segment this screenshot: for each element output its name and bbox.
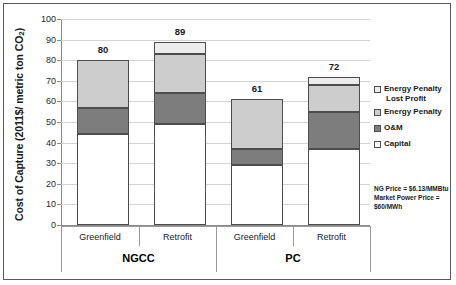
y-tick-label-50: 50 <box>46 117 56 127</box>
y-tick-label-30: 30 <box>46 158 56 168</box>
bar-segment-lost-profit[interactable] <box>308 77 360 85</box>
bar-segment-energy-penalty[interactable] <box>154 54 206 93</box>
bar-segment-om[interactable] <box>308 112 360 149</box>
bar-segment-energy-penalty[interactable] <box>77 60 129 107</box>
chart-container: Cost of Capture (2011$/ metric ton CO2) … <box>0 0 456 285</box>
y-tick-label-10: 10 <box>46 199 56 209</box>
annotation-ng-price: NG Price = $6.13/MMBtu <box>374 184 454 193</box>
legend-item-capital[interactable]: Capital <box>374 139 452 149</box>
y-tick-label-70: 70 <box>46 76 56 86</box>
bar-segment-om[interactable] <box>154 93 206 124</box>
legend-swatch-icon-energy-penalty <box>374 109 381 116</box>
legend-label-lost-profit-line1: Energy Penalty <box>384 84 442 93</box>
x-label-pc-greenfield: Greenfield <box>216 232 293 242</box>
y-tick-label-20: 20 <box>46 179 56 189</box>
y-tick-label-60: 60 <box>46 96 56 106</box>
chart-legend: Energy Penalty Lost Profit Energy Penalt… <box>374 84 452 152</box>
x-label-ngcc-greenfield: Greenfield <box>61 232 139 242</box>
legend-label-energy-penalty: Energy Penalty <box>384 107 442 117</box>
y-tick-label-40: 40 <box>46 138 56 148</box>
legend-label-lost-profit-line2: Lost Profit <box>384 94 442 104</box>
bar-segment-om[interactable] <box>77 108 129 135</box>
legend-swatch-icon-om <box>374 125 381 132</box>
annotation-market-power-price: Market Power Price = $60/MWh <box>374 193 454 211</box>
legend-item-energy-penalty-lost-profit[interactable]: Energy Penalty Lost Profit <box>374 84 452 104</box>
legend-item-om[interactable]: O&M <box>374 123 452 133</box>
y-axis-title-text: Cost of Capture (2011$/ metric ton CO <box>13 36 25 221</box>
bar-total-label-ngcc-greenfield: 80 <box>77 44 129 55</box>
x-group-label-pc: PC <box>216 252 370 264</box>
gridline-100: 100 <box>61 19 370 20</box>
y-tick-label-90: 90 <box>46 35 56 45</box>
gridline-90: 90 <box>61 40 370 41</box>
bar-segment-capital[interactable] <box>77 134 129 225</box>
bar-total-label-ngcc-retrofit: 89 <box>154 26 206 37</box>
x-label-pc-retrofit: Retrofit <box>293 232 370 242</box>
legend-swatch-icon-capital <box>374 141 381 148</box>
y-axis-title-suffix: ) <box>13 28 25 31</box>
y-tick-label-0: 0 <box>51 220 56 230</box>
legend-label-lost-profit: Energy Penalty Lost Profit <box>384 84 442 104</box>
bar-segment-energy-penalty[interactable] <box>231 99 283 149</box>
legend-label-om: O&M <box>384 123 403 133</box>
bar-segment-energy-penalty[interactable] <box>308 85 360 112</box>
bar-segment-capital[interactable] <box>308 149 360 225</box>
x-label-ngcc-retrofit: Retrofit <box>139 232 216 242</box>
x-axis-divider-right <box>370 226 371 246</box>
legend-swatch-icon-lost-profit <box>374 86 381 93</box>
y-axis-title-subscript: 2 <box>17 31 26 35</box>
y-tick-label-100: 100 <box>41 14 56 24</box>
bar-segment-lost-profit[interactable] <box>154 42 206 54</box>
bar-segment-om[interactable] <box>231 149 283 166</box>
legend-label-capital: Capital <box>384 139 411 149</box>
plot-area: 100 90 80 70 60 50 40 30 20 10 0 80 89 6… <box>61 19 370 225</box>
x-group-divider-right <box>370 246 371 272</box>
bar-total-label-pc-retrofit: 72 <box>308 61 360 72</box>
legend-item-energy-penalty[interactable]: Energy Penalty <box>374 107 452 117</box>
y-tick-label-80: 80 <box>46 55 56 65</box>
bar-segment-capital[interactable] <box>231 165 283 225</box>
bar-segment-capital[interactable] <box>154 124 206 225</box>
x-group-label-ngcc: NGCC <box>61 252 216 264</box>
price-assumptions-annotation: NG Price = $6.13/MMBtu Market Power Pric… <box>374 184 454 211</box>
bar-total-label-pc-greenfield: 61 <box>231 83 283 94</box>
y-axis-title: Cost of Capture (2011$/ metric ton CO2) <box>13 20 26 230</box>
